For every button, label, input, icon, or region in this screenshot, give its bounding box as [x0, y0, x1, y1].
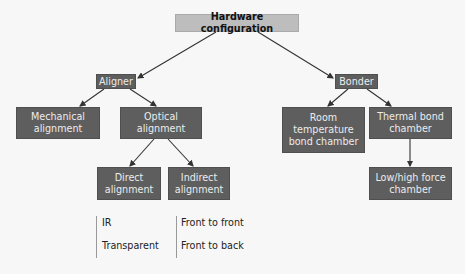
option-transparent: Transparent [102, 240, 159, 251]
option-front-to-front: Front to front [181, 217, 244, 228]
node-optical-alignment: Optical alignment [120, 107, 202, 139]
node-indirect-alignment: Indirect alignment [168, 167, 230, 200]
node-bonder: Bonder [335, 74, 378, 89]
node-low-high-force-chamber: Low/high force chamber [369, 167, 452, 200]
node-mechanical-alignment: Mechanical alignment [16, 107, 100, 139]
indirect-options-bracket [176, 216, 177, 258]
direct-options-bracket [96, 216, 97, 258]
root-node-hardware-configuration: Hardware configuration [175, 14, 299, 32]
option-ir: IR [102, 217, 112, 228]
option-front-to-back: Front to back [181, 240, 244, 251]
node-aligner: Aligner [96, 74, 136, 89]
node-direct-alignment: Direct alignment [97, 167, 161, 200]
node-thermal-bond-chamber: Thermal bond chamber [369, 107, 452, 139]
node-room-temperature-bond-chamber: Room temperature bond chamber [282, 107, 365, 153]
